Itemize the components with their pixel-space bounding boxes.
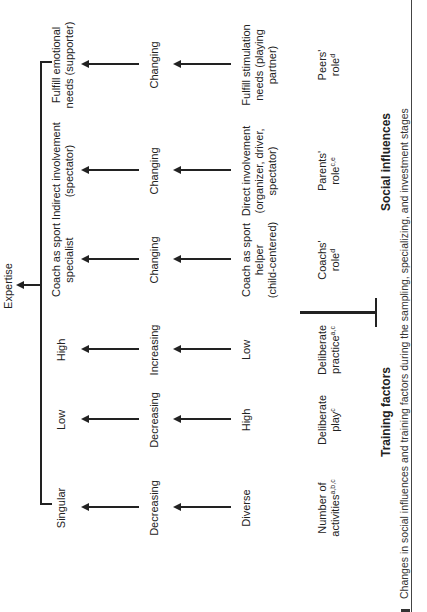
- activities-level2: Decreasing: [148, 480, 161, 536]
- play-level2: Decreasing: [148, 392, 161, 448]
- arrow-icon: [83, 419, 139, 421]
- arrow-icon: [175, 64, 231, 66]
- figure-page: Expertise Singular Decreasing Diverse Nu…: [0, 0, 427, 612]
- parents-level1: Direct involvement(organizer, driver,spe…: [240, 126, 279, 216]
- arrow-icon: [175, 419, 231, 421]
- expertise-label: Expertise: [2, 263, 15, 309]
- arrow-icon: [175, 259, 231, 261]
- arrow-icon: [83, 507, 139, 509]
- play-level3: Low: [55, 410, 68, 430]
- arrow-icon: [83, 64, 139, 66]
- coach-label: Coachs'roled: [316, 240, 342, 279]
- caption-rule: [411, 0, 412, 612]
- activities-label: Number ofactivitiesa,b,c: [316, 479, 342, 536]
- peers-label: Peers'roled: [316, 50, 342, 81]
- play-label: Deliberateplayc: [316, 395, 342, 445]
- practice-label: Deliberatepracticea,c: [316, 325, 342, 375]
- arrow-icon: [83, 259, 139, 261]
- coach-level3: Coach as sportspecialist: [50, 223, 76, 297]
- bracket-left-tick: [40, 504, 52, 506]
- practice-level3: High: [55, 339, 68, 362]
- arrow-icon: [83, 349, 139, 351]
- peers-level2: Changing: [148, 41, 161, 88]
- social-influences-heading: Social influences: [380, 113, 393, 211]
- arrow-icon: [175, 349, 231, 351]
- parents-level2: Changing: [148, 147, 161, 194]
- practice-level1: Low: [240, 340, 253, 360]
- top-bracket-line: [40, 62, 42, 505]
- arrow-icon: [175, 507, 231, 509]
- activities-level3: Singular: [55, 488, 68, 528]
- arrow-icon: [175, 170, 231, 172]
- expertise-arrow: [18, 285, 40, 287]
- activities-level1: Diverse: [240, 489, 253, 526]
- coach-level2: Changing: [148, 236, 161, 283]
- practice-level2: Increasing: [148, 325, 161, 376]
- play-level1: High: [240, 409, 253, 432]
- group-separator-base: [375, 298, 377, 327]
- coach-level1: Coach as sporthelper(child-centered): [240, 222, 279, 298]
- peers-level3: Fulfill emotionalneeds (supporter): [50, 22, 76, 109]
- arrow-icon: [83, 170, 139, 172]
- peers-level1: Fulfill stimulationneeds (playingpartner…: [240, 24, 279, 105]
- group-separator: [300, 311, 377, 314]
- parents-label: Parents'rolec,e: [316, 151, 342, 191]
- training-factors-heading: Training factors: [380, 367, 393, 457]
- parents-level3: Indirect involvement(spectator): [50, 122, 76, 220]
- figure-caption: Changes in social influences and trainin…: [398, 108, 410, 612]
